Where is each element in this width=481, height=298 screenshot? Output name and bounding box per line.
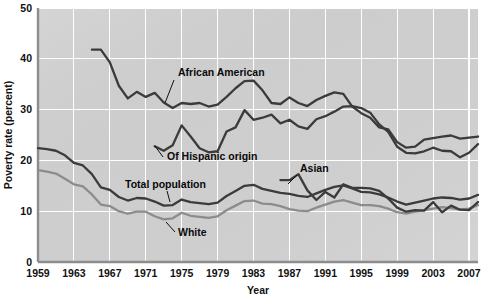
x-tick-label: 2007 [457,267,481,279]
plot-paper-texture [38,8,478,262]
y-axis-title: Poverty rate (percent) [2,81,14,190]
x-tick-label: 1963 [62,267,86,279]
poverty-rate-chart: 0102030405019591963196719711975197919831… [0,0,481,298]
series-label-total-population: Total population [125,178,206,190]
series-label-of-hispanic-origin: Of Hispanic origin [167,150,257,162]
x-tick-label: 1959 [26,267,50,279]
x-tick-label: 1979 [206,267,230,279]
x-tick-label: 1987 [278,267,302,279]
series-label-white: White [178,226,207,238]
x-axis-ticks: 1959196319671971197519791983198719911995… [26,267,481,279]
y-tick-label: 50 [20,2,32,14]
x-tick-label: 1991 [314,267,338,279]
y-tick-label: 10 [20,205,32,217]
x-tick-label: 2003 [421,267,445,279]
series-label-african-american: African American [178,66,265,78]
x-tick-label: 1967 [98,267,122,279]
y-axis-ticks: 01020304050 [20,2,32,268]
x-tick-label: 1971 [134,267,158,279]
chart-canvas: 0102030405019591963196719711975197919831… [0,0,481,298]
y-tick-label: 30 [20,103,32,115]
series-label-asian: Asian [300,162,329,174]
x-tick-label: 1995 [350,267,374,279]
x-tick-label: 1975 [170,267,194,279]
y-tick-label: 40 [20,52,32,64]
y-tick-label: 20 [20,154,32,166]
x-tick-label: 1983 [242,267,266,279]
y-tick-label: 0 [26,256,32,268]
x-axis-title: Year [247,284,269,296]
x-tick-label: 1999 [386,267,410,279]
